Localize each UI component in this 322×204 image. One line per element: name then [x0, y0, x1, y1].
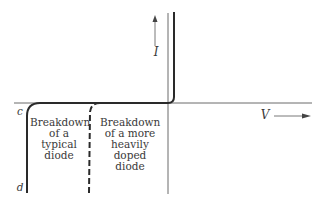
annotation-line: diode — [100, 161, 160, 172]
point-c-label: c — [15, 106, 25, 117]
heavily-doped-breakdown-curve — [89, 103, 100, 193]
typical-diode-annotation: Breakdown of a typical diode — [30, 117, 88, 161]
point-d-label: d — [15, 182, 25, 193]
annotation-line: diode — [30, 150, 88, 161]
v-arrow-head-icon — [302, 114, 311, 119]
v-axis-label: V — [258, 110, 272, 121]
i-axis-label: I — [150, 47, 162, 58]
i-arrow-head-icon — [153, 15, 158, 22]
heavily-doped-annotation: Breakdown of a more heavily doped diode — [100, 117, 160, 172]
diode-iv-diagram — [0, 0, 322, 204]
